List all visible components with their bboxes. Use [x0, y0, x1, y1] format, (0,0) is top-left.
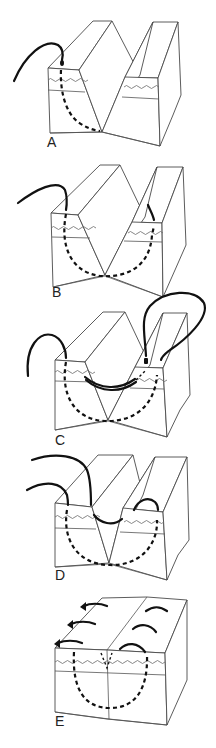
panel-a: A — [14, 21, 181, 150]
panel-label-e: E — [55, 713, 64, 729]
panel-label-d: D — [55, 567, 65, 583]
panel-e: E — [54, 597, 187, 729]
panel-label-c: C — [55, 432, 65, 448]
panel-label-a: A — [47, 134, 57, 150]
panel-b: B — [18, 165, 186, 300]
panel-c: C — [28, 293, 205, 448]
panel-label-b: B — [52, 284, 61, 300]
wedge-closure-diagram: A B — [0, 0, 216, 748]
panel-d: D — [27, 455, 189, 583]
